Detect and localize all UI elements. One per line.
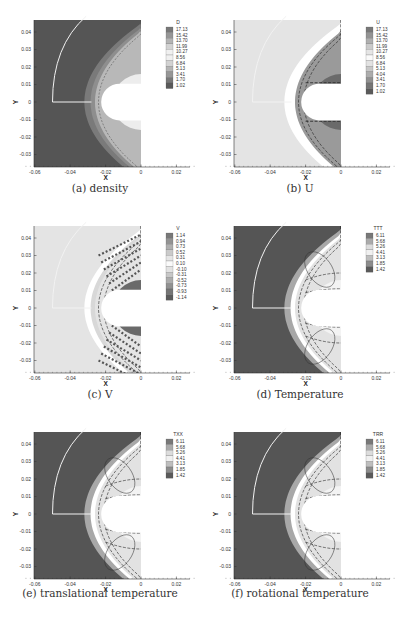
legend-swatch [366,61,373,67]
x-axis-label: X [303,174,308,181]
y-tick-label: 0.04 [21,441,31,447]
y-tick-label: 0 [28,99,31,105]
legend-swatch [366,439,373,445]
legend-label: 1.42 [376,473,385,478]
legend: TRR6.115.685.264.413.131.851.42 [366,431,385,478]
legend-title: TTT [373,225,382,231]
legend-swatch [166,38,173,44]
y-axis-label: Y [12,511,19,516]
panel-rotational-temperature: -0.06-0.04-0.0200.020.040.030.020.010-0.… [200,412,400,618]
y-tick-label: 0.03 [221,252,231,258]
panel-temperature: -0.06-0.04-0.0200.020.040.030.020.010-0.… [200,206,400,412]
y-tick-label: -0.01 [220,116,232,122]
y-axis-label: Y [12,99,19,104]
legend-swatch [366,27,373,33]
y-tick-label: -0.03 [20,357,32,363]
legend: TXX6.115.685.264.413.131.851.42 [166,431,185,478]
legend-label: 5.68 [176,445,185,450]
legend-label: 10.27 [176,49,188,54]
y-tick-label: -0.02 [20,134,32,140]
legend-swatch [366,445,373,451]
legend-swatch [366,450,373,456]
x-axis-label: X [103,174,108,181]
legend-label: 5.13 [176,66,185,71]
legend-swatch [166,267,173,273]
legend: D17.1315.4213.7011.9910.278.566.845.133.… [166,19,188,89]
figure-caption: (f) rotational temperature [200,587,400,599]
legend-swatch [166,461,173,467]
legend-swatch [166,55,173,61]
legend-label: 1.02 [176,83,185,88]
legend-swatch [166,233,173,239]
legend-label: 1.02 [376,89,385,94]
legend-swatch [366,267,373,273]
legend-label: 0.73 [176,244,185,249]
y-tick-label: 0.03 [21,458,31,464]
y-tick-label: 0.02 [21,64,31,70]
y-axis-label: Y [212,305,219,310]
legend-label: 6.11 [376,233,385,238]
legend-label: 0.10 [176,261,185,266]
legend-swatch [166,456,173,462]
y-tick-label: 0 [228,99,231,105]
y-tick-label: 0.02 [21,270,31,276]
y-tick-label: -0.01 [220,322,232,328]
legend-swatch [166,450,173,456]
body-cutout [301,496,342,533]
x-tick-label: 0.02 [372,375,382,381]
legend-label: -0.10 [176,267,187,272]
legend-swatch [166,49,173,55]
legend-title: TXX [173,431,183,437]
y-tick-label: 0.03 [21,252,31,258]
body-cutout [101,290,142,327]
legend-swatch [166,244,173,250]
y-axis-label: Y [212,99,219,104]
y-tick-label: -0.01 [20,322,32,328]
legend-label: 1.70 [176,77,185,82]
y-tick-label: 0 [228,511,231,517]
legend-label: -0.93 [176,289,187,294]
legend-swatch [166,77,173,83]
legend-label: 1.14 [176,233,185,238]
y-tick-label: -0.02 [220,134,232,140]
legend-label: 10.27 [376,49,388,54]
y-axis-label: Y [212,511,219,516]
x-tick-label: 0 [340,375,343,381]
legend-swatch [366,233,373,239]
legend-label: 4.41 [176,456,185,461]
y-tick-label: 0.01 [21,81,31,87]
figure-caption: (a) density [0,182,200,194]
legend-label: 6.11 [176,439,185,444]
x-axis-label: X [303,380,308,387]
legend-swatch [366,38,373,44]
x-tick-label: -0.04 [264,375,276,381]
legend-label: 5.68 [376,239,385,244]
legend-label: 1.85 [176,467,185,472]
legend-swatch [166,439,173,445]
y-tick-label: 0.02 [221,476,231,482]
legend-label: 17.13 [376,27,388,32]
x-tick-label: -0.06 [229,169,241,175]
legend-swatch [166,61,173,67]
panel-translational-temperature: -0.06-0.04-0.0200.020.040.030.020.010-0.… [0,412,200,618]
y-tick-label: -0.03 [20,563,32,569]
legend-swatch [366,456,373,462]
legend-swatch [366,72,373,78]
legend-swatch [166,289,173,295]
y-tick-label: -0.02 [20,546,32,552]
x-tick-label: 0 [140,375,143,381]
y-tick-label: 0.01 [221,287,231,293]
figure-caption: (d) Temperature [200,388,400,400]
legend-swatch [366,77,373,83]
legend-swatch [366,473,373,479]
legend-label: 5.26 [376,450,385,455]
legend-swatch [366,55,373,61]
contour-plot: -0.06-0.04-0.0200.020.040.030.020.010-0.… [0,206,200,412]
x-axis-label: X [103,380,108,387]
legend-label: 5.68 [376,445,385,450]
x-tick-label: 0.02 [172,169,182,175]
legend-swatch [166,278,173,284]
panel-u: -0.06-0.04-0.0200.020.040.030.020.010-0.… [200,0,400,206]
legend-label: 3.13 [176,461,185,466]
legend-label: 3.13 [376,255,385,260]
